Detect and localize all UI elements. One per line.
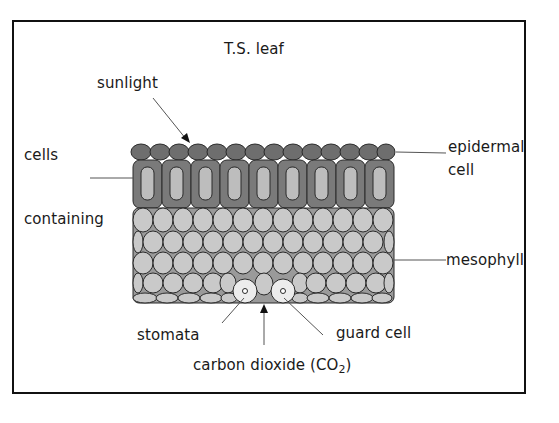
- label-epidermal-cell: cell: [448, 161, 474, 179]
- label-sunlight: sunlight: [97, 74, 158, 92]
- label-guard-cell: guard cell: [336, 324, 411, 342]
- label-epidermal: epidermal: [448, 138, 524, 156]
- label-carbon-dioxide: carbon dioxide (CO2): [193, 356, 352, 379]
- mesophyll-layer: [133, 208, 394, 303]
- co2-arrowhead: [260, 304, 268, 313]
- carbon-dioxide-close: ): [346, 356, 352, 374]
- upper-epidermis: [131, 144, 395, 160]
- co2-subscript: 2: [338, 363, 345, 376]
- label-mesophyll: mesophyll: [446, 251, 524, 269]
- label-containing: containing: [24, 210, 104, 228]
- palisade-layer: [133, 160, 394, 208]
- label-cells: cells: [24, 146, 58, 164]
- carbon-dioxide-text: carbon dioxide (CO: [193, 356, 338, 374]
- label-stomata: stomata: [137, 326, 199, 344]
- diagram-title: T.S. leaf: [224, 40, 284, 58]
